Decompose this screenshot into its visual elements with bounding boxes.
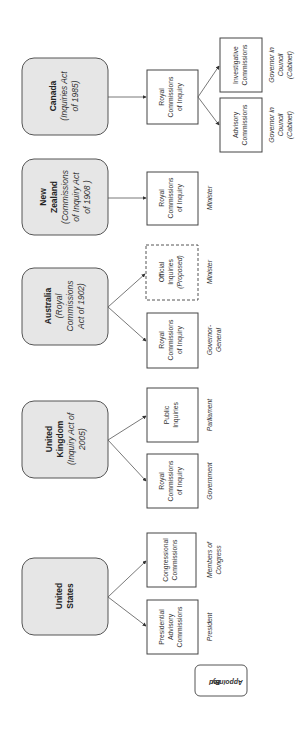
appointed-by-label: Governor- [206,324,213,355]
country-name-canada: Canada [48,80,58,111]
country-name-line: New [38,188,48,206]
country-act-line: Act of 1902) [76,283,86,330]
child-uk-public-inquiries: Public Inquiries Parliament [147,388,213,442]
child-uk-royal-commissions: Royal Commissions of Inquiry Government [147,454,213,508]
connector-arrow [108,307,146,341]
connector-arrow [108,416,146,440]
appointed-by-label: Council [277,53,284,76]
child-label-line: Commissions [171,539,178,580]
child-label-line: Commissions [241,104,248,145]
country-act-line: 2005) [77,428,87,451]
child-label-line: of Inquiry [176,466,184,495]
child-label-line: Commissions [167,460,174,501]
country-act-line: (Commissions [60,169,70,224]
appointed-by-label: (Cabinet) [286,111,294,139]
appointed-by-label: (Cabinet) [286,51,294,79]
child-label-line: (Proposed) [176,255,184,289]
country-united-kingdom: United Kingdom (Inquiry Act of 2005) [22,401,108,478]
country-name-australia: Australia [43,288,53,325]
commissions-diagram: Canada (Inquiries Act of 1985) Royal Com… [0,0,296,729]
country-act-line: (Royal [54,293,64,319]
appointed-by-label: Members of [206,541,213,578]
child-label-line: Royal [158,331,166,349]
child-canada-royal-commissions: Royal Commissions of Inquiry [147,70,198,124]
subchild-advisory-commissions: Advisory Commissions Governor in Council… [220,98,294,152]
appointed-by-label: Governor in [268,107,275,143]
child-nz-royal-commissions: Royal Commissions of Inquiry Minister [147,172,213,225]
appointed-by-label: General [215,327,222,352]
country-act-line: (Inquiries Act [59,71,69,121]
child-label-line: Inquiries [172,402,180,428]
child-label-line: Advisory [167,613,175,640]
country-act-line: of 1985) [70,80,80,111]
subchild-investigative-commissions: Investigative Commissions Governor in Co… [220,38,294,92]
child-label-line: Inquiries [167,259,175,285]
appointed-by-label: Minister [206,185,213,210]
appointed-by-label: President [206,612,213,642]
child-label-line: Public [163,405,170,424]
connector-arrow [108,274,145,307]
country-united-states: United States [22,558,108,635]
legend-label-line: Appointed [208,678,243,686]
country-act-line: (Inquiry Act of [66,411,76,465]
connector-arrow [198,97,219,125]
country-box-united-kingdom [22,401,108,478]
child-label-line: Presidential [158,609,165,645]
country-new-zealand: New Zealand (Commissions of Inquiry Act … [22,159,108,235]
child-label-line: Royal [158,88,166,106]
connector-arrow [198,66,219,97]
child-label-line: Commissions [167,319,174,360]
child-us-presidential-advisory-commissions: Presidential Advisory Commissions Presid… [147,600,213,654]
child-label-line: Royal [158,189,166,207]
country-act-line: Commissions [65,280,75,332]
appointed-by-label: Government [206,461,213,500]
child-label-line: Investigative [232,46,240,84]
legend-appointed-by: By Appointed [195,665,247,696]
child-label-line: Commissions [176,606,183,647]
child-label-line: Royal [158,472,166,490]
appointed-by-label: Council [277,113,284,136]
child-label-line: Congressional [162,538,170,582]
country-canada: Canada (Inquiries Act of 1985) [22,58,108,135]
connector-arrow [108,440,146,481]
appointed-by-label: Governor in [268,47,275,83]
child-label-line: Advisory [232,111,240,138]
child-australia-royal-commissions: Royal Commissions of Inquiry Governor- G… [147,313,222,368]
child-label-line: Commissions [241,44,248,85]
country-name-line: Kingdom [55,420,65,457]
child-label-line: Official [158,261,165,282]
child-label-line: Commissions [167,76,174,117]
child-label-line: of Inquiry [176,183,184,212]
appointed-by-label: Congress [215,545,223,575]
child-label-line: of Inquiry [176,325,184,354]
appointed-by-label: Parliament [206,398,213,432]
child-australia-official-inquiries: Official Inquiries (Proposed) Minister [146,245,213,300]
country-australia: Australia (Royal Commissions Act of 1902… [22,268,108,345]
appointed-by-label: Minister [206,259,213,284]
connector-arrow [108,597,146,626]
country-act-line: of 1908 ) [82,180,92,214]
country-name-line: States [65,583,75,609]
country-act-line: of Inquiry Act [71,172,81,222]
country-name-line: United [44,426,54,452]
connector-arrow [108,561,146,597]
country-name-line: United [54,583,64,609]
child-label-line: Commissions [167,177,174,218]
child-us-congressional-commissions: Congressional Commissions Members of Con… [147,533,223,587]
country-name-line: Zealand [49,181,59,213]
child-label-line: of Inquiry [176,82,184,111]
